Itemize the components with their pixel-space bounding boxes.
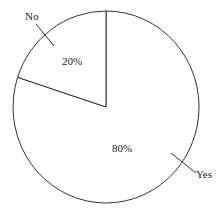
pie-chart: No 20% Yes 80% bbox=[0, 0, 224, 222]
value-label-no: 20% bbox=[62, 55, 82, 67]
value-label-yes: 80% bbox=[112, 142, 132, 154]
pie-slices bbox=[13, 11, 199, 203]
category-label-no: No bbox=[25, 10, 39, 22]
category-label-yes: Yes bbox=[196, 168, 212, 180]
